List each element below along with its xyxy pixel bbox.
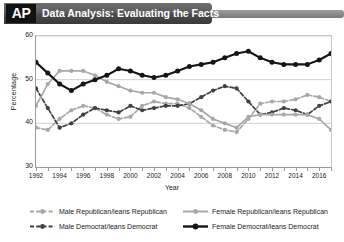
legend-item[interactable]: Male Republican/leans Republican [30, 207, 167, 216]
data-point [152, 106, 156, 110]
data-point [223, 84, 227, 88]
data-point [199, 115, 203, 119]
data-point [246, 99, 250, 103]
x-tick-mark [213, 168, 214, 171]
data-point [234, 51, 239, 56]
plot-area [35, 35, 332, 168]
data-point [46, 128, 50, 132]
data-point [175, 68, 180, 73]
legend-label: Male Democrat/leans Democrat [59, 223, 157, 230]
data-point [116, 66, 121, 71]
data-point [58, 69, 62, 73]
data-point [222, 55, 227, 60]
y-tick-label: 60 [9, 31, 33, 38]
data-point [81, 82, 86, 87]
legend-swatch [30, 207, 55, 216]
data-point [117, 84, 121, 88]
y-tick-label: 50 [9, 75, 33, 82]
x-tick-label: 2014 [283, 172, 309, 179]
x-tick-mark [71, 168, 72, 171]
series-line [36, 95, 331, 132]
x-tick-mark [166, 168, 167, 171]
data-point [211, 88, 215, 92]
x-tick-label: 1996 [70, 172, 96, 179]
x-tick-mark [248, 168, 249, 171]
data-point [105, 80, 109, 84]
x-tick-mark [83, 168, 84, 171]
data-point [223, 121, 227, 125]
data-point [152, 91, 156, 95]
data-point [81, 113, 85, 117]
data-point [152, 99, 156, 103]
data-point [211, 123, 215, 127]
data-point [270, 113, 274, 117]
data-point [117, 117, 121, 121]
header-bar-tail [210, 10, 344, 18]
data-point [164, 104, 168, 108]
page-header: AP Data Analysis: Evaluating the Facts [4, 3, 340, 24]
data-point [317, 95, 321, 99]
legend-label: Female Republican/leans Republican [212, 208, 328, 215]
data-point [187, 102, 191, 106]
x-tick-label: 2000 [117, 172, 143, 179]
data-point [69, 69, 73, 73]
data-point [105, 108, 109, 112]
data-point [164, 95, 168, 99]
data-point [69, 121, 73, 125]
data-point [223, 128, 227, 132]
data-point [187, 106, 191, 110]
x-tick-mark [260, 168, 261, 171]
x-tick-mark [272, 168, 273, 171]
x-axis-title: Year [0, 184, 344, 191]
x-tick-mark [319, 168, 320, 171]
x-tick-mark [331, 168, 332, 171]
data-point [176, 104, 180, 108]
x-tick-label: 2008 [212, 172, 238, 179]
data-point [128, 104, 132, 108]
data-point [211, 60, 216, 65]
data-point [282, 106, 286, 110]
x-tick-label: 2010 [235, 172, 261, 179]
data-point [140, 91, 144, 95]
x-tick-label: 2012 [259, 172, 285, 179]
data-point [246, 49, 251, 54]
legend-row: Male Democrat/leans DemocratFemale Democ… [0, 222, 344, 236]
x-tick-mark [154, 168, 155, 171]
line-chart-svg [36, 36, 331, 167]
x-tick-mark [201, 168, 202, 171]
data-point [258, 113, 262, 117]
data-point [58, 126, 62, 130]
data-point [93, 73, 97, 77]
x-tick-mark [189, 168, 190, 171]
ap-logo: AP [6, 4, 36, 23]
data-point [282, 99, 286, 103]
screenshot-root: AP Data Analysis: Evaluating the Facts P… [0, 0, 344, 242]
x-tick-mark [142, 168, 143, 171]
legend-item[interactable]: Male Democrat/leans Democrat [30, 222, 157, 231]
x-tick-mark [178, 168, 179, 171]
data-point [258, 102, 262, 106]
x-tick-label: 1992 [23, 172, 49, 179]
y-tick-label: 30 [9, 162, 33, 169]
legend-item[interactable]: Female Republican/leans Republican [183, 207, 328, 216]
data-point [46, 82, 50, 86]
x-tick-label: 2004 [165, 172, 191, 179]
data-point [81, 69, 85, 73]
x-tick-label: 2016 [306, 172, 332, 179]
data-point [294, 113, 298, 117]
x-tick-mark [237, 168, 238, 171]
data-point [235, 130, 239, 134]
legend-item[interactable]: Female Democrat/leans Democrat [183, 222, 319, 231]
legend-label: Female Democrat/leans Democrat [212, 223, 319, 230]
data-point [235, 126, 239, 130]
data-point [281, 62, 286, 67]
data-point [128, 115, 132, 119]
data-point [282, 113, 286, 117]
x-tick-mark [36, 168, 37, 171]
chart-container: Percentage 30405060 19921994199619982000… [0, 26, 344, 198]
x-tick-mark [60, 168, 61, 171]
page-title: Data Analysis: Evaluating the Facts [42, 3, 219, 24]
data-point [93, 106, 97, 110]
data-point [58, 117, 62, 121]
data-point [128, 88, 132, 92]
